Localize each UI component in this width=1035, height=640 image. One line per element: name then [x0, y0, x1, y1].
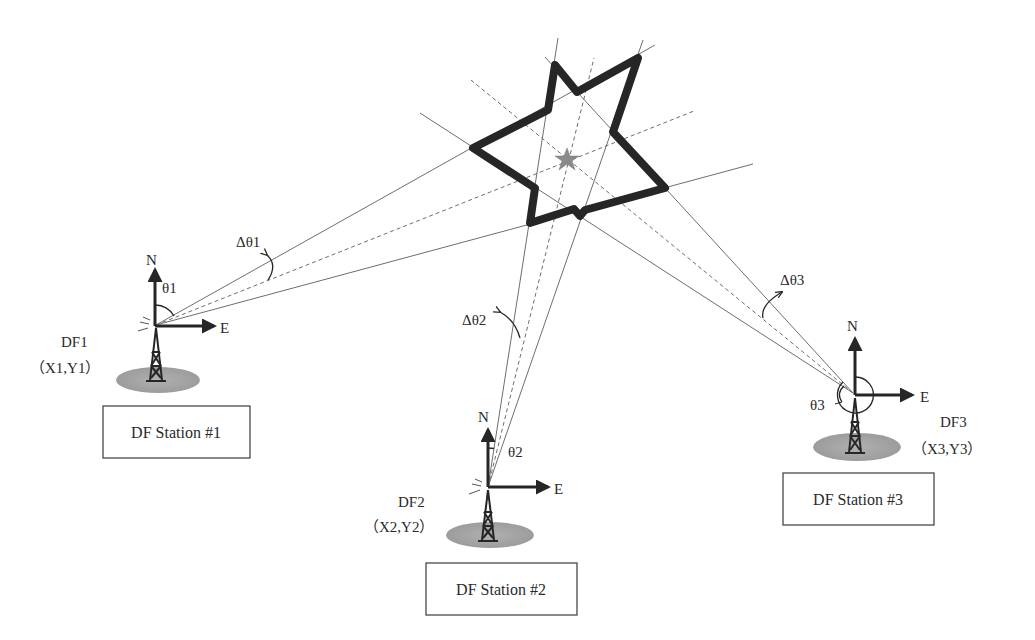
- target-region-outline: [473, 58, 665, 223]
- east-label: E: [220, 320, 229, 336]
- theta-arc-inner: [839, 386, 844, 402]
- theta-arc: [155, 305, 174, 316]
- east-label: E: [554, 481, 563, 497]
- station-name-label: DF1: [61, 334, 88, 350]
- station-df1: N E θ1 Δθ1 DF1 （X1,Y1） DF Station #1: [30, 234, 273, 458]
- delta-theta-arc: [267, 255, 273, 280]
- delta-theta-label: Δθ3: [780, 272, 804, 288]
- station-coord-label: （X1,Y1）: [30, 360, 100, 376]
- df3-upper-bound-ray: [545, 57, 853, 393]
- station-df2: N E θ2 Δθ2 DF2 （X2,Y2） DF Station #2: [364, 312, 577, 615]
- delta-theta-arc: [500, 312, 520, 338]
- theta-arc: [488, 448, 494, 449]
- bearing-rays-df3: [420, 57, 853, 393]
- station-coord-label: （X3,Y3）: [912, 441, 982, 457]
- station-box-label: DF Station #2: [456, 581, 546, 598]
- station-df3: N E θ3 Δθ3 DF3 （X3,Y3） DF Station #3: [763, 272, 983, 525]
- delta-theta-label: Δθ2: [462, 312, 486, 328]
- signal-waves-icon: [469, 479, 482, 494]
- north-label: N: [146, 252, 157, 268]
- station-box-label: DF Station #1: [131, 424, 221, 441]
- signal-waves-icon: [138, 317, 150, 331]
- df-triangulation-diagram: N E θ1 Δθ1 DF1 （X1,Y1） DF Station #1: [0, 0, 1035, 640]
- station-name-label: DF2: [398, 494, 425, 510]
- station-coord-label: （X2,Y2）: [364, 519, 434, 535]
- df3-bearing-ray: [471, 80, 853, 393]
- theta-label: θ1: [162, 280, 177, 296]
- df1-bearing-ray: [156, 111, 694, 325]
- station-box-label: DF Station #3: [813, 491, 903, 508]
- north-label: N: [478, 409, 489, 425]
- theta-label: θ2: [508, 444, 523, 460]
- theta-label: θ3: [810, 397, 825, 413]
- station-name-label: DF3: [940, 414, 967, 430]
- df2-bearing-ray: [488, 58, 594, 487]
- delta-theta-label: Δθ1: [236, 234, 260, 250]
- north-label: N: [847, 318, 858, 334]
- east-label: E: [920, 389, 929, 405]
